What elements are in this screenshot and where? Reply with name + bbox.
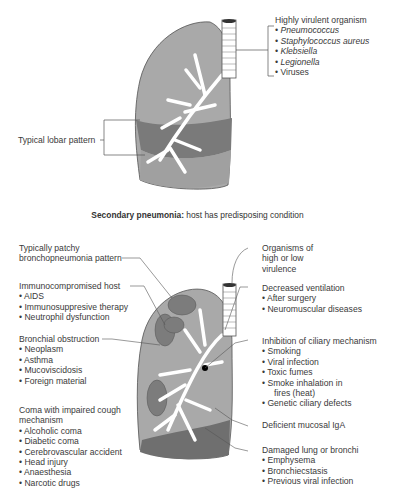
trachea-bottom: [223, 283, 236, 336]
organism-item: Viruses: [275, 67, 369, 77]
patchy-pattern-label: Typically patchy bronchopneumonia patter…: [19, 243, 122, 264]
virulent-organism-label: Highly virulent organism Pneumococcus St…: [275, 15, 369, 77]
organisms-virulence-label: Organisms of high or low virulence: [262, 243, 313, 274]
bronchial-obstruction-label: Bronchial obstruction Neoplasm Asthma Mu…: [19, 334, 99, 386]
trachea-top: [222, 19, 236, 78]
damaged-lung-label: Damaged lung or bronchi Emphysema Bronch…: [262, 445, 359, 487]
top-lung: [100, 19, 274, 189]
coma-label: Coma with impaired cough mechanism Alcoh…: [19, 405, 122, 488]
organism-item: Legionella: [275, 57, 369, 67]
organism-item: Staphylococcus aureus: [275, 36, 369, 46]
decreased-ventilation-label: Decreased ventilation After surgery Neur…: [262, 283, 362, 314]
ciliary-inhibition-label: Inhibition of ciliary mechanism Smoking …: [262, 336, 377, 409]
lobar-pattern-label: Typical lobar pattern: [18, 135, 95, 145]
deficient-iga-label: Deficient mucosal IgA: [262, 420, 345, 430]
organism-item: Pneumococcus: [275, 25, 369, 35]
caption: Secondary pneumonia: host has predisposi…: [0, 210, 395, 220]
bottom-lung: [102, 248, 248, 459]
organism-item: Klebsiella: [275, 46, 369, 56]
immunocompromised-label: Immunocompromised host AIDS Immunosuppre…: [19, 281, 128, 323]
